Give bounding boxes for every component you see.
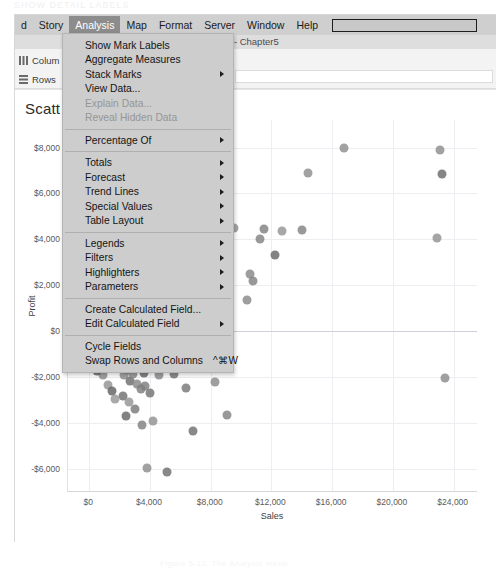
rows-shelf-label: Rows [32, 74, 56, 85]
y-tick-label: $8,000 [15, 143, 60, 153]
x-gridline [332, 120, 333, 491]
submenu-arrow-icon [220, 284, 224, 290]
submenu-arrow-icon [220, 137, 224, 143]
menu-item-legends[interactable]: Legends [63, 236, 233, 251]
submenu-arrow-icon [220, 189, 224, 195]
menu-item-table-layout[interactable]: Table Layout [63, 214, 233, 229]
menu-item-label: View Data... [85, 83, 224, 94]
menu-item-label: Trend Lines [85, 186, 212, 197]
scatter-mark[interactable] [182, 383, 191, 392]
menubar-item-map[interactable]: Map [120, 16, 152, 35]
menubar-item-help[interactable]: Help [290, 16, 324, 35]
menu-item-label: Forecast [85, 172, 212, 183]
menu-item-label: Highlighters [85, 267, 212, 278]
rows-shelf-dropzone[interactable] [235, 70, 493, 83]
y-axis-title: Profit [27, 295, 37, 316]
menubar-item-story[interactable]: Story [33, 16, 70, 35]
columns-icon [19, 56, 28, 65]
scatter-mark[interactable] [149, 416, 158, 425]
menu-item-cycle-fields[interactable]: Cycle Fields [63, 339, 233, 354]
menu-item-highlighters[interactable]: Highlighters [63, 265, 233, 280]
scatter-mark[interactable] [303, 168, 312, 177]
menubar-item-format[interactable]: Format [153, 16, 198, 35]
menu-item-trend-lines[interactable]: Trend Lines [63, 185, 233, 200]
y-tick-label: $6,000 [15, 188, 60, 198]
menubar-item-analysis[interactable]: Analysis [69, 16, 120, 35]
scatter-mark[interactable] [223, 411, 232, 420]
menu-item-label: Aggregate Measures [85, 54, 224, 65]
menu-item-show-mark-labels[interactable]: Show Mark Labels [63, 38, 233, 53]
y-tick-label: -$6,000 [15, 464, 60, 474]
menu-item-view-data[interactable]: View Data... [63, 82, 233, 97]
menu-item-special-values[interactable]: Special Values [63, 199, 233, 214]
menu-item-stack-marks[interactable]: Stack Marks [63, 67, 233, 82]
scatter-mark[interactable] [248, 276, 257, 285]
scatter-mark[interactable] [436, 145, 445, 154]
menu-item-forecast[interactable]: Forecast [63, 170, 233, 185]
y-tick-label: -$4,000 [15, 418, 60, 428]
figure-caption: Figure 5-12. The Analysis menu [160, 559, 288, 568]
menu-item-edit-calculated-field[interactable]: Edit Calculated Field [63, 317, 233, 332]
menu-item-label: Totals [85, 157, 212, 168]
x-gridline [393, 120, 394, 491]
scatter-mark[interactable] [211, 377, 220, 386]
scatter-mark[interactable] [297, 226, 306, 235]
menu-item-label: Table Layout [85, 215, 212, 226]
menu-item-shortcut: ^⌘W [213, 355, 239, 366]
rows-icon [19, 75, 28, 84]
menu-item-parameters[interactable]: Parameters [63, 280, 233, 295]
scatter-mark[interactable] [256, 235, 265, 244]
scatter-mark[interactable] [188, 427, 197, 436]
menu-item-filters[interactable]: Filters [63, 251, 233, 266]
scatter-mark[interactable] [440, 374, 449, 383]
scatter-mark[interactable] [340, 143, 349, 152]
scatter-mark[interactable] [162, 468, 171, 477]
menu-item-label: Cycle Fields [85, 341, 224, 352]
scatter-mark[interactable] [138, 421, 147, 430]
menu-separator [65, 232, 231, 233]
menu-item-label: Edit Calculated Field [85, 318, 212, 329]
scatter-mark[interactable] [146, 389, 155, 398]
scatter-mark[interactable] [270, 251, 279, 260]
columns-shelf-label: Colum [32, 55, 59, 66]
scatter-mark[interactable] [130, 405, 139, 414]
menu-item-label: Legends [85, 238, 212, 249]
scatter-mark[interactable] [433, 234, 442, 243]
y-tick-label: $0 [15, 326, 60, 336]
scatter-mark[interactable] [121, 412, 130, 421]
scatter-mark[interactable] [142, 463, 151, 472]
tableau-app-window: d Story Analysis Map Format Server Windo… [14, 14, 496, 542]
menu-item-percentage-of[interactable]: Percentage Of [63, 133, 233, 148]
menu-item-aggregate-measures[interactable]: Aggregate Measures [63, 53, 233, 68]
menu-item-swap-rows-and-columns[interactable]: Swap Rows and Columns^⌘W [63, 354, 233, 369]
menu-item-label: Explain Data... [85, 98, 224, 109]
submenu-arrow-icon [220, 321, 224, 327]
menubar-item-server[interactable]: Server [198, 16, 241, 35]
scatter-mark[interactable] [278, 227, 287, 236]
scatter-mark[interactable] [243, 296, 252, 305]
scatter-mark[interactable] [259, 225, 268, 234]
screenshot-root: SHOW DETAIL LABELS d Story Analysis Map … [0, 0, 496, 570]
search-input[interactable] [332, 19, 477, 32]
menu-item-label: Percentage Of [85, 135, 212, 146]
submenu-arrow-icon [220, 160, 224, 166]
menu-item-label: Show Mark Labels [85, 40, 224, 51]
scatter-mark[interactable] [437, 169, 446, 178]
menu-item-totals[interactable]: Totals [63, 156, 233, 171]
menu-bar: d Story Analysis Map Format Server Windo… [15, 15, 496, 35]
menu-item-create-calculated-field[interactable]: Create Calculated Field... [63, 302, 233, 317]
menu-separator [65, 129, 231, 130]
submenu-arrow-icon [220, 255, 224, 261]
submenu-arrow-icon [220, 269, 224, 275]
menu-item-label: Parameters [85, 281, 212, 292]
submenu-arrow-icon [220, 71, 224, 77]
x-gridline [454, 120, 455, 491]
x-gridline [271, 120, 272, 491]
menubar-item-window[interactable]: Window [241, 16, 290, 35]
y-gridline [68, 423, 477, 424]
menubar-item-0[interactable]: d [15, 16, 33, 35]
menu-item-label: Special Values [85, 201, 212, 212]
analysis-dropdown-menu[interactable]: Show Mark LabelsAggregate MeasuresStack … [62, 33, 234, 373]
y-tick-label: $2,000 [15, 280, 60, 290]
scatter-mark[interactable] [111, 395, 120, 404]
